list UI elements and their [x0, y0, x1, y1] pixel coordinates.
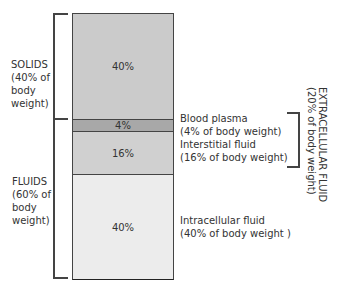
intracellular-fluid-label: Intracellular fluid (40% of body weight …	[180, 214, 291, 240]
fluids-label-line: body	[12, 201, 51, 214]
bracket-divider	[53, 118, 68, 120]
solids-label-line: SOLIDS	[11, 58, 50, 71]
fluids-bracket-bottom	[53, 277, 68, 279]
extracellular-label-line: (20% of body weight)	[306, 87, 317, 202]
segment-value: 40%	[112, 222, 134, 233]
segment-value: 16%	[112, 148, 134, 159]
extracellular-bracket-bottom	[287, 166, 299, 168]
fluids-label-line: FLUIDS	[12, 175, 51, 188]
fluids-bracket-vertical	[53, 119, 55, 278]
interstitial-fluid-label-line: (16% of body weight)	[180, 151, 288, 164]
solids-label-line: weight)	[11, 97, 50, 110]
blood-plasma-label-line: (4% of body weight)	[180, 125, 281, 138]
bar-segment-solids: 40%	[72, 13, 174, 119]
extracellular-bracket-vertical	[298, 112, 300, 168]
intracellular-fluid-label-line: Intracellular fluid	[180, 214, 291, 227]
bar-segment-blood-plasma: 4%	[72, 119, 174, 132]
segment-value: 40%	[112, 61, 134, 72]
segment-value: 4%	[115, 120, 131, 131]
intracellular-fluid-label-line: (40% of body weight )	[180, 227, 291, 240]
solids-bracket-vertical	[53, 13, 55, 119]
solids-label-line: (40% of	[11, 71, 50, 84]
solids-label: SOLIDS (40% of body weight)	[11, 58, 50, 110]
fluids-label-line: weight)	[12, 214, 51, 227]
extracellular-label-line: EXTRACELLULAR FLUID	[317, 87, 328, 202]
blood-plasma-label-line: Blood plasma	[180, 112, 281, 125]
fluids-label: FLUIDS (60% of body weight)	[12, 175, 51, 227]
solids-label-line: body	[11, 84, 50, 97]
interstitial-fluid-label: Interstitial fluid (16% of body weight)	[180, 138, 288, 164]
solids-bracket-top	[53, 13, 68, 15]
interstitial-fluid-label-line: Interstitial fluid	[180, 138, 288, 151]
bar-segment-intracellular-fluid: 40%	[72, 174, 174, 280]
fluids-label-line: (60% of	[12, 188, 51, 201]
bar-segment-interstitial-fluid: 16%	[72, 132, 174, 174]
blood-plasma-label: Blood plasma (4% of body weight)	[180, 112, 281, 138]
extracellular-fluid-label: EXTRACELLULAR FLUID (20% of body weight)	[306, 87, 328, 202]
